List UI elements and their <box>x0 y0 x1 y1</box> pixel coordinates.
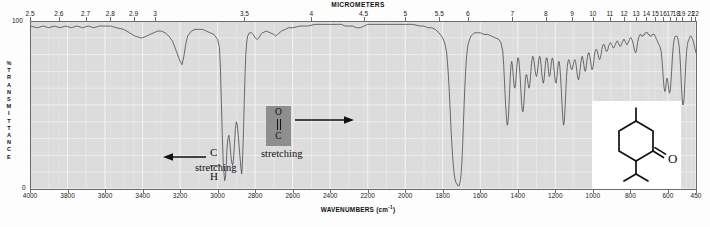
double-bond-icon <box>277 119 281 130</box>
y-axis-title-char: S <box>3 96 15 103</box>
bottom-tick-label: 3800 <box>60 192 74 199</box>
carbonyl-oxygen-label: O <box>266 107 291 117</box>
y-axis-title-char: A <box>3 132 15 139</box>
bottom-tick-label: 1000 <box>586 192 600 199</box>
bottom-tick-label: 1200 <box>548 192 562 199</box>
bottom-tick-label: 1800 <box>435 192 449 199</box>
top-tick-label: 6 <box>466 10 470 17</box>
y-axis-min-label: 0 <box>22 184 26 191</box>
bottom-tick-label: 800 <box>625 192 636 199</box>
bottom-tick-label: 2000 <box>398 192 412 199</box>
carbonyl-carbon-label: C <box>266 131 291 141</box>
bottom-axis-title: WAVENUMBERS (cm-1) <box>321 205 396 213</box>
bottom-axis-title-main: WAVENUMBERS (cm <box>321 206 389 213</box>
y-axis-title-char: C <box>3 146 15 153</box>
inset-oxygen-label: O <box>668 151 677 166</box>
top-tick-label: 10 <box>589 10 596 17</box>
top-tick-label: 11 <box>606 10 613 17</box>
axis-line-bottom <box>30 189 697 190</box>
top-tick-label: 22 <box>692 10 699 17</box>
bottom-tick-label: 3600 <box>98 192 112 199</box>
top-tick-label: 15 <box>652 10 659 17</box>
top-tick-label: 2.6 <box>54 10 63 17</box>
axis-line-right <box>696 21 697 190</box>
y-axis-title-char: T <box>3 67 15 74</box>
ch-stretching-sublabel: stretching <box>195 162 236 173</box>
top-tick-label: 3 <box>153 10 157 17</box>
bottom-axis-title-end: ) <box>393 206 395 213</box>
top-tick-label: 2.7 <box>81 10 90 17</box>
axis-line-top <box>30 21 697 22</box>
top-tick-label: 4 <box>310 10 314 17</box>
top-tick-label: 3.5 <box>240 10 249 17</box>
top-tick-label: 5 <box>403 10 407 17</box>
y-axis-title-char: I <box>3 110 15 117</box>
bottom-tick-label: 600 <box>662 192 673 199</box>
molecular-structure-inset: O <box>592 101 681 189</box>
y-axis-max-label: 100 <box>12 17 23 24</box>
bottom-tick-label: 2200 <box>360 192 374 199</box>
y-axis-title-char: N <box>3 139 15 146</box>
top-tick-label: 19 <box>678 10 685 17</box>
co-arrow-icon <box>295 115 355 125</box>
top-tick-label: 5.5 <box>435 10 444 17</box>
bottom-tick-label: 450 <box>691 192 702 199</box>
menthone-structure-icon: O <box>592 101 681 189</box>
y-axis-title-char: E <box>3 154 15 161</box>
top-tick-label: 9 <box>570 10 574 17</box>
bottom-tick-label: 3000 <box>210 192 224 199</box>
bottom-tick-label: 2400 <box>323 192 337 199</box>
bottom-tick-label: 4000 <box>23 192 37 199</box>
bottom-tick-label: 1600 <box>473 192 487 199</box>
top-axis-title: MICROMETERS <box>331 1 384 8</box>
y-axis-title: %TRANSMITTANCE <box>3 60 15 161</box>
top-tick-label: 4.5 <box>359 10 368 17</box>
top-tick-label: 14 <box>643 10 650 17</box>
y-axis-title-char: N <box>3 89 15 96</box>
y-axis-title-char: R <box>3 74 15 81</box>
top-tick-label: 2.5 <box>25 10 34 17</box>
y-axis-title-char: T <box>3 125 15 132</box>
carbonyl-group-box: O C <box>266 106 291 146</box>
top-tick-label: 8 <box>544 10 548 17</box>
co-stretching-sublabel: stretching <box>261 148 302 159</box>
y-axis-title-char: A <box>3 82 15 89</box>
bottom-tick-label: 2600 <box>285 192 299 199</box>
axis-line-left <box>30 21 31 190</box>
top-tick-label: 13 <box>632 10 639 17</box>
ch-arrow-icon <box>163 152 207 162</box>
bottom-tick-label: 3200 <box>173 192 187 199</box>
y-axis-title-char: T <box>3 118 15 125</box>
top-tick-label: 2.9 <box>129 10 138 17</box>
bottom-tick-label: 1400 <box>511 192 525 199</box>
ir-spectrum-figure: MICROMETERS 2.52.62.72.82.933.544.555.56… <box>0 0 710 227</box>
y-axis-title-char: % <box>3 60 15 67</box>
y-axis-title-char: M <box>3 103 15 110</box>
top-tick-label: 2.8 <box>106 10 115 17</box>
bottom-tick-label: 2800 <box>248 192 262 199</box>
top-tick-label: 7 <box>511 10 515 17</box>
top-tick-label: 12 <box>620 10 627 17</box>
bottom-tick-label: 3400 <box>135 192 149 199</box>
